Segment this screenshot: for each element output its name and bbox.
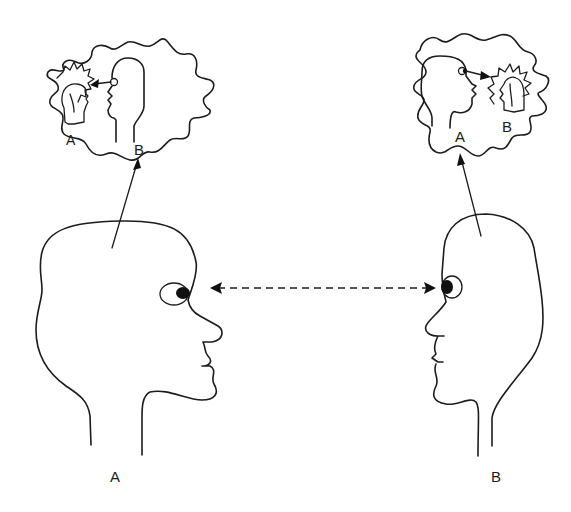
small-head-b [500, 77, 524, 112]
cloud-a-label-a: A [66, 132, 76, 148]
pupil-b [441, 280, 453, 294]
cloud-a-label-b: B [134, 141, 144, 158]
head-b-outline [426, 214, 543, 456]
arrowhead-icon [457, 153, 465, 166]
cloud-b-label-a: A [455, 128, 465, 145]
person-b-label: B [491, 468, 501, 485]
thought-bubble-a: A B [47, 39, 214, 160]
arrowhead-icon [480, 71, 491, 80]
thought-link-arrow-b [462, 162, 481, 236]
thought-link-arrow-a [112, 163, 137, 248]
person-a-label: A [110, 468, 120, 485]
diagram-canvas: A B A A B [0, 0, 571, 512]
small-head-a [62, 84, 88, 124]
person-a: A [36, 221, 222, 485]
imagined-head-a [421, 56, 476, 128]
small-head-a-ear-line [70, 94, 74, 112]
small-head-b-ear-line [510, 84, 512, 106]
gaze-arrow [210, 282, 436, 294]
head-a-outline [36, 221, 222, 455]
person-b: B [426, 214, 543, 485]
cloud-b-label-b: B [502, 118, 512, 135]
pupil-a [176, 287, 190, 299]
thought-bubble-b: A B [414, 34, 549, 156]
imagined-head-b [108, 58, 144, 142]
